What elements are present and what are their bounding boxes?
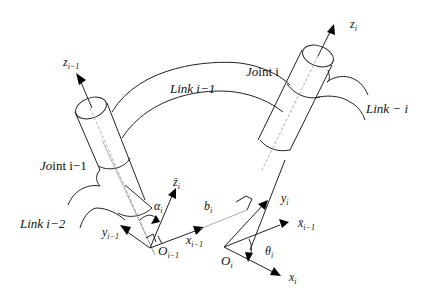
label-link-prev: Link i−1 [169,81,215,96]
arrowhead-icon [327,24,335,35]
svg-text:zi: zi [349,17,357,33]
link-prev2-stub [68,170,125,228]
label-theta-i: θi [265,244,273,260]
svg-text:yi−1: yi−1 [101,225,119,241]
link-i-stub [315,70,368,120]
svg-text:Joint i−1: Joint i−1 [40,158,87,173]
b-plate [236,196,252,210]
svg-text:θi: θi [265,244,273,260]
label-o-prev: Oi−1 [158,243,179,260]
svg-text:αi: αi [154,199,163,215]
arrowhead-icon [193,226,204,235]
label-xbar-prev: x̄i−1 [297,216,315,232]
arrowhead-icon [168,188,176,199]
joint-prev-cylinder [73,93,155,255]
label-link-i: Link − i [365,101,408,116]
label-alpha-i: αi [154,199,163,215]
svg-text:Joint i: Joint i [246,64,279,79]
label-b-i: bi [204,199,212,215]
svg-text:xi: xi [288,270,297,286]
label-joint-i: Joint i [246,64,279,79]
arrowhead-icon [151,215,160,224]
frame-i [224,200,289,276]
svg-text:xi−1: xi−1 [185,233,203,249]
z-prev-axis [76,73,92,108]
label-link-prev2: Link i−2 [19,216,66,231]
label-x-prev: xi−1 [185,233,203,249]
label-z-prev: zi−1 [62,55,79,71]
arrowhead-icon [279,219,289,228]
label-o-i: Oi [221,253,233,270]
svg-text:zi−1: zi−1 [62,55,79,71]
z-i-axis [318,24,335,56]
svg-text:Oi−1: Oi−1 [158,243,179,260]
svg-text:bi: bi [204,199,212,215]
arrowhead-icon [76,73,86,85]
label-joint-prev: Joint i−1 [40,158,87,173]
label-zbar-i: z̄i [172,175,180,191]
svg-text:z̄i: z̄i [172,175,180,191]
label-x-i: xi [288,270,297,286]
svg-text:x̄i−1: x̄i−1 [297,216,315,232]
label-z-i: zi [349,17,357,33]
label-y-prev: yi−1 [101,225,119,241]
arrowhead-icon [245,252,253,262]
robot-kinematics-diagram: zi−1 zi Link i−1 Joint i Link − i Joint … [0,0,422,303]
svg-text:yi: yi [280,191,289,207]
label-y-i: yi [280,191,289,207]
svg-text:Oi: Oi [221,253,233,270]
